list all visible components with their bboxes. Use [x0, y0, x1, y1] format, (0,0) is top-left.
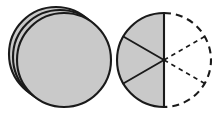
disc-stack — [9, 7, 111, 107]
sector-divider-lower-dashed — [164, 60, 205, 84]
sector-circle-dashed-arc — [164, 13, 211, 107]
disc-stack-front-disc — [17, 13, 111, 107]
figure-root: Stack of three discs beside a circle div… — [0, 0, 215, 116]
sector-circle-shaded-left-half — [117, 13, 164, 107]
sector-circle — [117, 13, 211, 107]
figure-canvas: Stack of three discs beside a circle div… — [0, 0, 215, 116]
sector-divider-upper-dashed — [164, 37, 205, 61]
sector-circle-dashed-right-half — [164, 13, 211, 107]
